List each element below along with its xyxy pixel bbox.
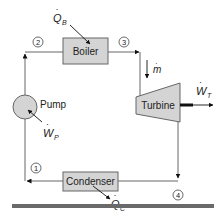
state-3-label: 3 (122, 38, 126, 47)
turbine-shaft (180, 104, 193, 107)
mass-flow: m · (147, 59, 161, 78)
work-pump-dot: · (46, 119, 49, 129)
state-2-label: 2 (36, 38, 40, 47)
state-1: 1 (31, 163, 41, 173)
boiler: Boiler (63, 38, 108, 64)
heat-in-dot: · (56, 4, 59, 14)
rankine-cycle-diagram: Boiler Q · B 2 3 m · Turbine W · T Pu (0, 0, 222, 213)
work-pump-flow: W · P (43, 119, 59, 141)
state-3: 3 (119, 37, 129, 47)
condenser-label: Condenser (66, 176, 116, 187)
pump-circle (13, 95, 37, 119)
boiler-label: Boiler (73, 46, 99, 57)
heat-out-dot: · (114, 190, 117, 200)
work-turbine-flow: W · T (196, 77, 212, 99)
turbine-label: Turbine (141, 100, 175, 111)
state-2: 2 (33, 37, 43, 47)
state-4: 4 (173, 190, 183, 200)
work-pump-subscript: P (54, 134, 59, 141)
condenser: Condenser (63, 172, 118, 191)
state-1-label: 1 (34, 164, 38, 173)
heat-in-subscript: B (62, 19, 67, 26)
pump-label: Pump (40, 99, 67, 110)
mass-flow-dot: · (155, 59, 158, 68)
work-turbine-subscript: T (207, 92, 212, 99)
work-turbine-dot: · (199, 77, 202, 87)
bottom-rule (12, 204, 214, 208)
pump: Pump (13, 95, 67, 122)
state-4-label: 4 (176, 191, 180, 200)
